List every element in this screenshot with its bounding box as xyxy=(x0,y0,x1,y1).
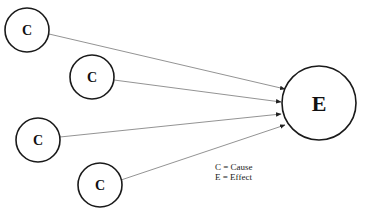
edge-arrow xyxy=(60,114,281,137)
legend-cause: C = Cause xyxy=(215,162,253,172)
cause-node: C xyxy=(16,118,60,162)
nodes: CCCCE xyxy=(5,8,356,207)
cause-node: C xyxy=(70,55,114,99)
edge-arrow xyxy=(114,80,281,102)
cause-node: C xyxy=(5,8,49,52)
cause-effect-diagram: CCCCE xyxy=(0,0,365,212)
cause-node-label: C xyxy=(95,178,105,193)
effect-node-label: E xyxy=(312,91,327,116)
cause-node-label: C xyxy=(22,23,32,38)
edge-arrow xyxy=(121,125,285,180)
cause-node-label: C xyxy=(87,70,97,85)
legend: C = Cause E = Effect xyxy=(215,162,253,182)
cause-node: C xyxy=(78,163,122,207)
legend-effect: E = Effect xyxy=(215,172,253,182)
effect-node: E xyxy=(282,66,356,140)
cause-node-label: C xyxy=(33,133,43,148)
